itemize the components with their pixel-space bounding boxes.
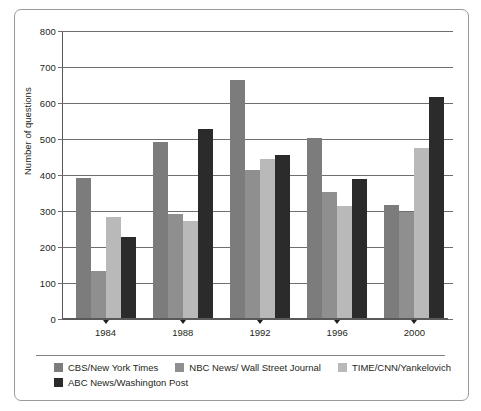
y-tick-label-800: 800 — [40, 26, 56, 37]
y-tick-mark-200 — [58, 247, 63, 248]
plot-area: 0100200300400500600700800198419881992199… — [62, 31, 448, 319]
x-tick-label-1988: 1988 — [172, 327, 193, 338]
right-tick-800 — [448, 31, 453, 32]
bar-1992-series-1[interactable] — [245, 170, 260, 318]
bar-1988-series-2[interactable] — [183, 221, 198, 318]
x-tick-marker-1996 — [334, 320, 340, 324]
bar-1992-series-0[interactable] — [230, 80, 245, 318]
x-tick-label-2000: 2000 — [404, 327, 425, 338]
legend-item[interactable]: CBS/New York Times — [54, 362, 158, 373]
bar-1988-series-3[interactable] — [198, 129, 213, 318]
y-tick-label-0: 0 — [51, 314, 56, 325]
y-tick-label-500: 500 — [40, 134, 56, 145]
right-tick-600 — [448, 103, 453, 104]
y-tick-mark-600 — [58, 103, 63, 104]
legend-swatch — [54, 378, 63, 387]
legend-label: CBS/New York Times — [68, 362, 158, 373]
bar-group-2000 — [384, 31, 444, 318]
right-tick-0 — [448, 319, 453, 320]
x-tick-marker-2000 — [411, 320, 417, 324]
bar-1996-series-1[interactable] — [322, 192, 337, 318]
legend-label: TIME/CNN/Yankelovich — [352, 362, 451, 373]
y-tick-label-100: 100 — [40, 278, 56, 289]
bar-1996-series-2[interactable] — [337, 206, 352, 318]
x-tick-marker-1988 — [180, 320, 186, 324]
y-tick-label-600: 600 — [40, 98, 56, 109]
legend-divider — [36, 355, 445, 356]
y-tick-label-700: 700 — [40, 62, 56, 73]
y-tick-label-300: 300 — [40, 206, 56, 217]
legend-label: ABC News/Washington Post — [68, 377, 188, 388]
y-tick-mark-100 — [58, 283, 63, 284]
y-tick-mark-700 — [58, 67, 63, 68]
right-tick-200 — [448, 247, 453, 248]
right-tick-100 — [448, 283, 453, 284]
legend-item[interactable]: TIME/CNN/Yankelovich — [338, 362, 451, 373]
bar-1988-series-0[interactable] — [153, 142, 168, 318]
chart-legend: CBS/New York TimesNBC News/ Wall Street … — [54, 362, 454, 392]
y-tick-label-200: 200 — [40, 242, 56, 253]
legend-swatch — [54, 363, 63, 372]
legend-label: NBC News/ Wall Street Journal — [189, 362, 321, 373]
x-tick-marker-1984 — [103, 320, 109, 324]
bar-group-1988 — [153, 31, 213, 318]
y-tick-mark-800 — [58, 31, 63, 32]
bar-1988-series-1[interactable] — [168, 214, 183, 318]
x-tick-label-1992: 1992 — [249, 327, 270, 338]
x-tick-marker-1992 — [257, 320, 263, 324]
right-tick-500 — [448, 139, 453, 140]
y-tick-mark-500 — [58, 139, 63, 140]
legend-row-1: ABC News/Washington Post — [54, 377, 454, 388]
y-tick-mark-0 — [58, 319, 63, 320]
bar-group-1996 — [307, 31, 367, 318]
bar-group-1984 — [76, 31, 136, 318]
legend-item[interactable]: NBC News/ Wall Street Journal — [175, 362, 321, 373]
legend-item[interactable]: ABC News/Washington Post — [54, 377, 188, 388]
y-tick-label-400: 400 — [40, 170, 56, 181]
y-axis-title: Number of questions — [22, 87, 33, 175]
bar-1984-series-1[interactable] — [91, 271, 106, 318]
right-tick-300 — [448, 211, 453, 212]
gridline-0 — [63, 319, 448, 320]
x-tick-label-1996: 1996 — [327, 327, 348, 338]
bar-2000-series-3[interactable] — [429, 97, 444, 318]
right-tick-700 — [448, 67, 453, 68]
bar-1992-series-2[interactable] — [260, 159, 275, 318]
chart-figure: Number of questions 01002003004005006007… — [0, 0, 481, 411]
bar-2000-series-2[interactable] — [414, 148, 429, 318]
bar-2000-series-0[interactable] — [384, 205, 399, 318]
y-tick-mark-400 — [58, 175, 63, 176]
bar-1984-series-3[interactable] — [121, 237, 136, 318]
bar-1996-series-0[interactable] — [307, 138, 322, 318]
bar-2000-series-1[interactable] — [399, 212, 414, 318]
legend-swatch — [338, 363, 347, 372]
x-tick-label-1984: 1984 — [95, 327, 116, 338]
legend-swatch — [175, 363, 184, 372]
right-tick-400 — [448, 175, 453, 176]
bar-1996-series-3[interactable] — [352, 179, 367, 318]
bar-1992-series-3[interactable] — [275, 155, 290, 318]
legend-row-0: CBS/New York TimesNBC News/ Wall Street … — [54, 362, 454, 373]
bar-1984-series-2[interactable] — [106, 217, 121, 318]
bar-group-1992 — [230, 31, 290, 318]
bar-1984-series-0[interactable] — [76, 178, 91, 318]
y-tick-mark-300 — [58, 211, 63, 212]
